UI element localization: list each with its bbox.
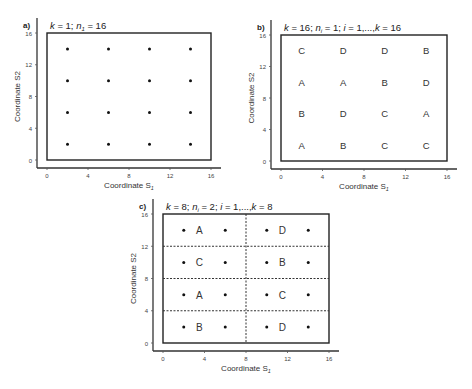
panel-title: k = 1; n1 = 16 bbox=[50, 20, 106, 32]
sample-point bbox=[189, 47, 192, 50]
sample-point bbox=[148, 79, 151, 82]
y-tick-label: 0 bbox=[29, 158, 33, 164]
panel-c: c)k = 8; ni = 2; i = 1,...,k = 800448812… bbox=[129, 199, 339, 374]
x-tick-label: 16 bbox=[326, 356, 333, 362]
sample-point bbox=[189, 79, 192, 82]
treatment-label: A bbox=[196, 290, 203, 301]
y-axis-label: Coordinate S2 bbox=[247, 72, 256, 124]
x-tick-label: 4 bbox=[321, 174, 325, 180]
sample-point bbox=[224, 325, 227, 328]
sample-point bbox=[224, 293, 227, 296]
treatment-label: A bbox=[196, 225, 203, 236]
x-tick-label: 0 bbox=[45, 173, 49, 179]
sample-point bbox=[265, 325, 268, 328]
panel-label: c) bbox=[139, 202, 146, 211]
sample-point bbox=[182, 229, 185, 232]
x-tick-label: 16 bbox=[208, 173, 215, 179]
treatment-label: D bbox=[279, 322, 286, 333]
treatment-label: C bbox=[196, 257, 203, 268]
x-tick-label: 8 bbox=[244, 356, 248, 362]
y-axis-label: Coordinate S2 bbox=[13, 70, 22, 122]
treatment-label: D bbox=[340, 45, 347, 56]
figure-canvas: a)k = 1; n1 = 1600448812121616Coordinate… bbox=[0, 0, 472, 389]
x-tick-label: 12 bbox=[402, 174, 409, 180]
treatment-label: B bbox=[279, 257, 286, 268]
sample-point bbox=[265, 229, 268, 232]
sample-point bbox=[224, 229, 227, 232]
panel-a: a)k = 1; n1 = 1600448812121616Coordinate… bbox=[13, 18, 221, 191]
sample-point bbox=[66, 143, 69, 146]
treatment-label: C bbox=[381, 108, 388, 119]
sample-point bbox=[182, 325, 185, 328]
y-tick-label: 8 bbox=[145, 276, 149, 282]
sample-point bbox=[307, 293, 310, 296]
treatment-label: D bbox=[340, 108, 347, 119]
y-axis-label: Coordinate S2 bbox=[129, 252, 138, 304]
treatment-label: B bbox=[196, 322, 203, 333]
treatment-label: C bbox=[423, 140, 430, 151]
sample-point bbox=[148, 111, 151, 114]
sample-point bbox=[307, 261, 310, 264]
sample-point bbox=[189, 143, 192, 146]
treatment-label: D bbox=[279, 225, 286, 236]
treatment-label: A bbox=[299, 77, 306, 88]
sample-point bbox=[66, 111, 69, 114]
y-tick-label: 12 bbox=[259, 64, 266, 70]
sample-point bbox=[307, 325, 310, 328]
y-tick-label: 12 bbox=[25, 62, 32, 68]
sample-point bbox=[265, 261, 268, 264]
x-tick-label: 4 bbox=[203, 356, 207, 362]
sample-point bbox=[107, 111, 110, 114]
treatment-label: B bbox=[299, 108, 305, 119]
panel-title: k = 8; ni = 2; i = 1,...,k = 8 bbox=[166, 201, 272, 213]
panel-label: b) bbox=[257, 23, 265, 32]
sample-point bbox=[107, 47, 110, 50]
y-tick-label: 16 bbox=[25, 31, 32, 37]
y-tick-label: 12 bbox=[141, 244, 148, 250]
panel-b: b)k = 16; ni = 1; i = 1,...,k = 16004488… bbox=[247, 20, 457, 192]
sample-point bbox=[182, 261, 185, 264]
treatment-label: A bbox=[299, 140, 306, 151]
x-axis-label: Coordinate S1 bbox=[104, 181, 154, 191]
sample-point bbox=[148, 143, 151, 146]
sample-point bbox=[66, 79, 69, 82]
treatment-label: C bbox=[279, 290, 286, 301]
sample-point bbox=[66, 47, 69, 50]
sample-point bbox=[182, 293, 185, 296]
study-area-frame bbox=[47, 33, 211, 160]
sample-point bbox=[107, 79, 110, 82]
treatment-label: A bbox=[423, 108, 430, 119]
y-tick-label: 16 bbox=[141, 212, 148, 218]
x-tick-label: 0 bbox=[279, 174, 283, 180]
y-tick-label: 8 bbox=[29, 94, 33, 100]
x-axis-label: Coordinate S1 bbox=[339, 182, 389, 192]
treatment-label: B bbox=[382, 77, 388, 88]
y-tick-label: 4 bbox=[29, 126, 33, 132]
x-tick-label: 16 bbox=[444, 174, 451, 180]
treatment-label: C bbox=[298, 45, 305, 56]
y-tick-label: 4 bbox=[263, 127, 267, 133]
y-tick-label: 0 bbox=[263, 159, 267, 165]
sample-point bbox=[189, 111, 192, 114]
sample-point bbox=[307, 229, 310, 232]
panel-title: k = 16; ni = 1; i = 1,...,k = 16 bbox=[284, 22, 401, 34]
x-tick-label: 8 bbox=[362, 174, 366, 180]
sample-point bbox=[107, 143, 110, 146]
treatment-label: B bbox=[423, 45, 429, 56]
treatment-label: B bbox=[340, 140, 346, 151]
y-tick-label: 4 bbox=[145, 308, 149, 314]
sample-point bbox=[224, 261, 227, 264]
x-tick-label: 12 bbox=[284, 356, 291, 362]
treatment-label: D bbox=[381, 45, 388, 56]
y-tick-label: 8 bbox=[263, 96, 267, 102]
treatment-label: A bbox=[340, 77, 347, 88]
treatment-label: C bbox=[381, 140, 388, 151]
x-tick-label: 4 bbox=[86, 173, 90, 179]
y-tick-label: 0 bbox=[145, 341, 149, 347]
treatment-label: D bbox=[423, 77, 430, 88]
x-axis-label: Coordinate S1 bbox=[221, 364, 271, 374]
sample-point bbox=[148, 47, 151, 50]
panel-label: a) bbox=[23, 21, 30, 30]
x-tick-label: 12 bbox=[167, 173, 174, 179]
sample-point bbox=[265, 293, 268, 296]
